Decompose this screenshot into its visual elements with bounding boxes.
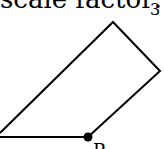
diagram-figure — [0, 0, 164, 149]
shape-outline — [0, 22, 160, 137]
center-point — [84, 133, 93, 142]
point-label: P — [93, 142, 105, 149]
